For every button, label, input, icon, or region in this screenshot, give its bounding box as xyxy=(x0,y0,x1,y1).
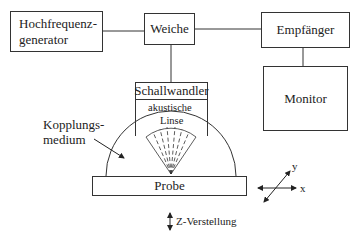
transducer-label: Schallwandler xyxy=(134,83,208,99)
monitor-label: Monitor xyxy=(284,91,327,107)
weiche-label: Weiche xyxy=(150,21,189,37)
sample-label: Probe xyxy=(154,178,184,194)
z-adjust-label: Z-Verstellung xyxy=(176,215,236,227)
block-transducer: Schallwandler xyxy=(135,82,208,100)
y-axis-arrow xyxy=(264,171,290,202)
block-sample: Probe xyxy=(92,176,247,196)
y-axis-label: y xyxy=(292,160,298,172)
generator-label-line2: generator xyxy=(19,32,68,48)
lens-label-line1: akustische xyxy=(148,102,192,114)
receiver-label: Empfänger xyxy=(277,22,335,38)
x-axis-label: x xyxy=(300,182,306,194)
lens-label-line2: Linse xyxy=(160,115,183,127)
block-receiver: Empfänger xyxy=(261,12,350,48)
block-weiche: Weiche xyxy=(144,13,195,45)
block-hf-generator: Hochfrequenz- generator xyxy=(10,11,103,52)
block-monitor: Monitor xyxy=(263,66,348,131)
generator-label-line1: Hochfrequenz- xyxy=(19,16,97,32)
coupling-medium-label-line1: Kopplungs- xyxy=(43,118,104,132)
coupling-medium-label-line2: medium xyxy=(43,133,86,147)
